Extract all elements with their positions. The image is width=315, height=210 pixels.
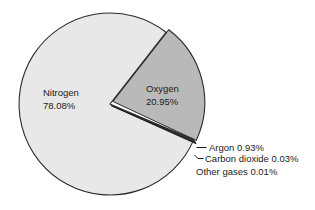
callout-other-gases: Other gases 0.01% xyxy=(196,166,278,177)
pie-chart-figure: Nitrogen 78.08% Oxygen 20.95% Argon 0.93… xyxy=(0,0,315,210)
callout-other-gases-label: Other gases 0.01% xyxy=(196,166,278,177)
leader-hook-carbon-dioxide-icon xyxy=(195,155,204,159)
callout-argon: Argon 0.93% xyxy=(197,142,265,153)
pie-label-oxygen-value: 20.95% xyxy=(146,96,179,107)
pie-label-oxygen-name: Oxygen xyxy=(146,83,179,94)
callout-argon-label: Argon 0.93% xyxy=(209,142,264,153)
pie-label-nitrogen-name: Nitrogen xyxy=(43,87,79,98)
callout-carbon-dioxide-label: Carbon dioxide 0.03% xyxy=(205,153,299,164)
callout-carbon-dioxide: Carbon dioxide 0.03% xyxy=(195,153,300,164)
pie-chart-canvas: Nitrogen 78.08% Oxygen 20.95% Argon 0.93… xyxy=(0,0,315,210)
pie-label-nitrogen-value: 78.08% xyxy=(43,100,76,111)
